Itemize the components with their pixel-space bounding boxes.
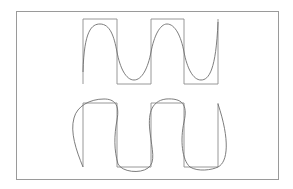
diagram-canvas — [0, 0, 293, 189]
top-wave-group — [83, 19, 218, 84]
top-square-wave — [83, 19, 218, 84]
bottom-approx-curve — [73, 99, 227, 172]
diagram-frame — [17, 12, 279, 180]
top-approx-curve — [83, 22, 218, 80]
bottom-wave-group — [73, 99, 227, 172]
